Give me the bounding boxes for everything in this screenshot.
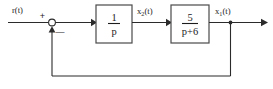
block-diagram-canvas: r(t) + — 1 p 5 p+6 x2(t) x1(t) xyxy=(0,0,273,89)
x1-arg: (t) xyxy=(222,6,230,16)
intermediate-signal-label: x2(t) xyxy=(137,6,153,17)
block1-numerator: 1 xyxy=(111,12,116,23)
svg-text:x2(t): x2(t) xyxy=(137,6,153,17)
block2-numerator: 5 xyxy=(187,12,192,23)
wire-sum-to-block1 xyxy=(56,19,98,26)
output-signal-label: x1(t) xyxy=(215,6,231,17)
wire-block2-to-output xyxy=(209,19,268,26)
wire-block1-to-block2 xyxy=(132,19,172,26)
summing-junction xyxy=(49,19,56,26)
x2-arg: (t) xyxy=(144,6,152,16)
block2-denominator: p+6 xyxy=(182,26,198,37)
transfer-function-block-1 xyxy=(96,5,132,43)
input-signal-label: r(t) xyxy=(12,5,23,15)
block1-denominator: p xyxy=(111,26,116,37)
block-diagram-svg: r(t) + — 1 p 5 p+6 x2(t) x1(t) xyxy=(0,0,273,89)
transfer-function-block-2 xyxy=(171,5,209,43)
svg-text:x1(t): x1(t) xyxy=(215,6,231,17)
summing-junction-plus-sign: + xyxy=(40,11,45,21)
summing-junction-minus-sign: — xyxy=(56,27,65,37)
